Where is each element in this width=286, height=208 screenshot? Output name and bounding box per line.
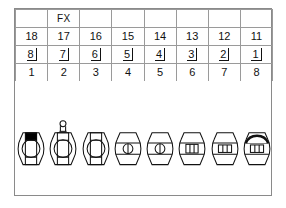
- crown-post-icon: [60, 121, 67, 132]
- fdi-cell-6[interactable]: 13: [176, 28, 208, 46]
- annotation-row: FX: [16, 10, 273, 28]
- annotation-cell-4[interactable]: [112, 10, 144, 28]
- palmer-cell-7[interactable]: 2: [208, 46, 240, 64]
- annotation-cell-2-fx[interactable]: FX: [48, 10, 80, 28]
- tooth-6[interactable]: [176, 78, 208, 170]
- palmer-notation: 8: [27, 48, 37, 61]
- palmer-cell-4[interactable]: 5: [112, 46, 144, 64]
- tooth-4[interactable]: [112, 78, 144, 170]
- annotation-cell-8[interactable]: [240, 10, 272, 28]
- fdi-cell-8[interactable]: 11: [240, 28, 272, 46]
- palmer-cell-6[interactable]: 3: [176, 46, 208, 64]
- annotation-cell-1[interactable]: [16, 10, 48, 28]
- fdi-cell-1[interactable]: 18: [16, 28, 48, 46]
- tooth-5[interactable]: [144, 78, 176, 170]
- palmer-cell-8[interactable]: 1: [240, 46, 272, 64]
- tooth-diagram-row: [15, 78, 273, 170]
- dental-chart: FX 18 17 16 15 14 13 12 11 8 7: [14, 8, 272, 196]
- palmer-notation: 3: [187, 48, 197, 61]
- tooth-7[interactable]: [209, 78, 241, 170]
- fdi-cell-7[interactable]: 12: [208, 28, 240, 46]
- palmer-notation: 5: [123, 48, 133, 61]
- fdi-cell-2[interactable]: 17: [48, 28, 80, 46]
- tooth-2[interactable]: [47, 78, 79, 170]
- annotation-cell-6[interactable]: [176, 10, 208, 28]
- bold-arc-marking: [246, 136, 268, 143]
- palmer-notation: 4: [155, 48, 165, 61]
- palmer-notation: 1: [251, 48, 261, 61]
- palmer-cell-2[interactable]: 7: [48, 46, 80, 64]
- tooth-8[interactable]: [241, 78, 273, 170]
- palmer-cell-1[interactable]: 8: [16, 46, 48, 64]
- palmer-row: 8 7 6 5 4 3 2 1: [16, 46, 273, 64]
- tooth-number-table: FX 18 17 16 15 14 13 12 11 8 7: [15, 9, 273, 81]
- palmer-notation: 6: [91, 48, 101, 61]
- palmer-cell-3[interactable]: 6: [80, 46, 112, 64]
- palmer-notation: 7: [59, 48, 69, 61]
- fdi-cell-3[interactable]: 16: [80, 28, 112, 46]
- tooth-1[interactable]: [15, 78, 47, 170]
- fdi-cell-4[interactable]: 15: [112, 28, 144, 46]
- palmer-notation: 2: [219, 48, 229, 61]
- tooth-3[interactable]: [80, 78, 112, 170]
- annotation-cell-3[interactable]: [80, 10, 112, 28]
- annotation-cell-5[interactable]: [144, 10, 176, 28]
- fdi-cell-5[interactable]: 14: [144, 28, 176, 46]
- fdi-row: 18 17 16 15 14 13 12 11: [16, 28, 273, 46]
- annotation-cell-7[interactable]: [208, 10, 240, 28]
- filled-restoration: [26, 133, 36, 140]
- palmer-cell-5[interactable]: 4: [144, 46, 176, 64]
